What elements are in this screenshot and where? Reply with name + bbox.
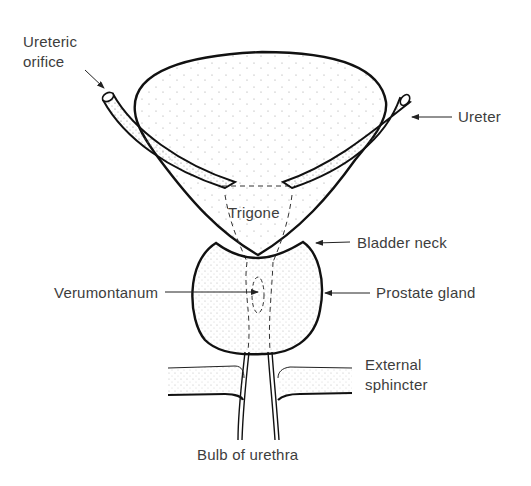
label-ureter: Ureter [458, 108, 501, 126]
label-prostate-gland: Prostate gland [376, 284, 476, 302]
label-verumontanum: Verumontanum [54, 284, 158, 302]
external-sphincter [168, 366, 352, 400]
urethra [238, 352, 279, 440]
prostate-gland [192, 242, 322, 354]
label-trigone: Trigone [228, 204, 280, 222]
label-bladder-neck: Bladder neck [357, 234, 447, 252]
label-external-sphincter-line2: sphincter [365, 376, 428, 394]
label-external-sphincter-line1: External [365, 356, 422, 374]
label-ureteric-orifice-line1: Ureteric [23, 33, 77, 51]
label-bulb-of-urethra: Bulb of urethra [197, 446, 298, 464]
anatomy-diagram [0, 0, 531, 486]
label-ureteric-orifice-line2: orifice [23, 53, 64, 71]
